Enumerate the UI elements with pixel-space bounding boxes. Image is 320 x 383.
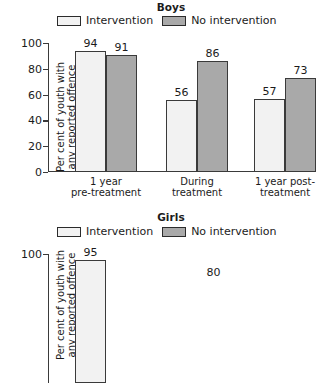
girls-ytick-label-100: 100	[21, 249, 42, 260]
boys-plot-area: Per cent of youth with any reported offe…	[48, 43, 316, 172]
bar-slot-intervention: 94	[75, 43, 106, 172]
boys-ytick-20	[43, 146, 48, 147]
boys-ytick-label-60: 60	[28, 89, 42, 100]
bar-intervention[interactable]	[75, 260, 106, 383]
bar-no-intervention[interactable]	[106, 55, 137, 172]
boys-legend: Intervention No intervention	[57, 15, 277, 26]
girls-group-1-no-intervention-value: 80	[198, 254, 229, 383]
legend-label-no-intervention: No intervention	[191, 226, 276, 237]
girls-y-axis-title: Per cent of youth with any reported offe…	[55, 239, 77, 371]
bar-slot-no-intervention: 80	[198, 254, 229, 383]
bar-intervention[interactable]	[75, 51, 106, 172]
boys-ytick-40	[43, 120, 48, 121]
boys-category-label-3: 1 year post- treatment	[238, 176, 320, 198]
bar-value-intervention: 95	[75, 247, 106, 258]
boys-category-label-2-line1: During	[150, 176, 244, 187]
legend-label-intervention: Intervention	[86, 226, 153, 237]
boys-ytick-80	[43, 69, 48, 70]
legend-entry-no-intervention: No intervention	[162, 226, 276, 237]
boys-category-label-1-line2: pre-treatment	[59, 187, 153, 198]
bar-value-intervention: 57	[254, 86, 285, 97]
legend-label-intervention: Intervention	[86, 15, 153, 26]
legend-swatch-no-intervention-icon	[162, 16, 186, 26]
legend-label-no-intervention: No intervention	[191, 15, 276, 26]
bar-slot-no-intervention: 86	[197, 43, 228, 172]
legend-swatch-intervention-icon	[57, 227, 81, 237]
bar-value-no-intervention: 80	[198, 267, 229, 278]
bar-value-intervention: 94	[75, 38, 106, 49]
boys-category-label-2-line2: treatment	[150, 187, 244, 198]
bar-slot-no-intervention: 73	[285, 43, 316, 172]
girls-chart-title: Girls	[0, 211, 316, 223]
girls-legend: Intervention No intervention	[57, 226, 277, 237]
bar-no-intervention[interactable]	[285, 78, 316, 172]
boys-ytick-label-80: 80	[28, 63, 42, 74]
boys-ytick-label-100: 100	[21, 38, 42, 49]
bar-slot-intervention: 57	[254, 43, 285, 172]
boys-group-3: 57 73 1 year post- treatment	[254, 43, 316, 172]
legend-entry-no-intervention: No intervention	[162, 15, 276, 26]
boys-category-label-1: 1 year pre-treatment	[59, 176, 153, 198]
boys-category-label-3-line2: treatment	[238, 187, 320, 198]
boys-ytick-label-40: 40	[28, 115, 42, 126]
bar-intervention[interactable]	[166, 100, 197, 172]
girls-y-axis-title-line1: Per cent of youth with	[55, 239, 66, 371]
boys-group-1: 94 91 1 year pre-treatment	[75, 43, 137, 172]
boys-category-label-3-line1: 1 year post-	[238, 176, 320, 187]
boys-ytick-60	[43, 95, 48, 96]
boys-ytick-100	[43, 43, 48, 44]
boys-ytick-label-0: 0	[35, 167, 42, 178]
boys-category-label-2: During treatment	[150, 176, 244, 198]
bar-slot-no-intervention: 91	[106, 43, 137, 172]
bar-value-no-intervention: 91	[106, 42, 137, 53]
boys-y-axis-title-line1: Per cent of youth with	[55, 51, 66, 183]
bar-slot-intervention: 95	[75, 254, 106, 383]
boys-ytick-label-20: 20	[28, 141, 42, 152]
bar-no-intervention[interactable]	[197, 61, 228, 172]
legend-entry-intervention: Intervention	[57, 15, 153, 26]
bar-value-intervention: 56	[166, 87, 197, 98]
boys-chart-panel: Boys Intervention No intervention Per ce…	[0, 0, 316, 200]
girls-group-1: 95	[75, 254, 106, 383]
boys-category-label-1-line1: 1 year	[59, 176, 153, 187]
boys-y-axis-line	[48, 43, 49, 172]
bar-intervention[interactable]	[254, 99, 285, 173]
legend-swatch-intervention-icon	[57, 16, 81, 26]
boys-y-axis-title: Per cent of youth with any reported offe…	[55, 51, 77, 183]
bar-value-no-intervention: 73	[285, 65, 316, 76]
girls-plot-area: Per cent of youth with any reported offe…	[48, 254, 316, 383]
bar-value-no-intervention: 86	[197, 48, 228, 59]
girls-chart-panel: Girls Intervention No intervention Per c…	[0, 206, 316, 271]
legend-swatch-no-intervention-icon	[162, 227, 186, 237]
girls-ytick-100	[43, 254, 48, 255]
bar-slot-intervention: 56	[166, 43, 197, 172]
legend-entry-intervention: Intervention	[57, 226, 153, 237]
boys-chart-title: Boys	[0, 1, 316, 13]
boys-group-2: 56 86 During treatment	[166, 43, 228, 172]
girls-y-axis-line	[48, 254, 49, 383]
boys-ytick-0	[43, 172, 48, 173]
